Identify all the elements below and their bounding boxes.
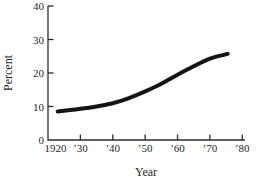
x-tick-label: ’30 (73, 142, 88, 154)
y-axis-title: Percent (1, 54, 15, 91)
x-tick-label: ’70 (203, 142, 218, 154)
x-tick-label: ’50 (138, 142, 153, 154)
y-tick-label: 40 (33, 0, 45, 12)
y-tick-label: 30 (33, 34, 45, 46)
x-axis-title: Year (135, 165, 157, 179)
x-tick-label: ’60 (170, 142, 185, 154)
percent-by-year-chart: 0102030401920’30’40’50’60’70’80 Percent … (0, 0, 263, 185)
chart-plot-area: 0102030401920’30’40’50’60’70’80 (33, 0, 250, 154)
x-tick-label: ’40 (105, 142, 120, 154)
x-tick-label: 1920 (45, 142, 68, 154)
axes-lines (48, 6, 245, 140)
line-chart-figure: 0102030401920’30’40’50’60’70’80 Percent … (0, 0, 263, 185)
y-tick-label: 10 (33, 101, 45, 113)
y-tick-label: 20 (33, 67, 45, 79)
data-curve-percent-over-time (58, 54, 228, 112)
x-tick-label: ’80 (235, 142, 250, 154)
